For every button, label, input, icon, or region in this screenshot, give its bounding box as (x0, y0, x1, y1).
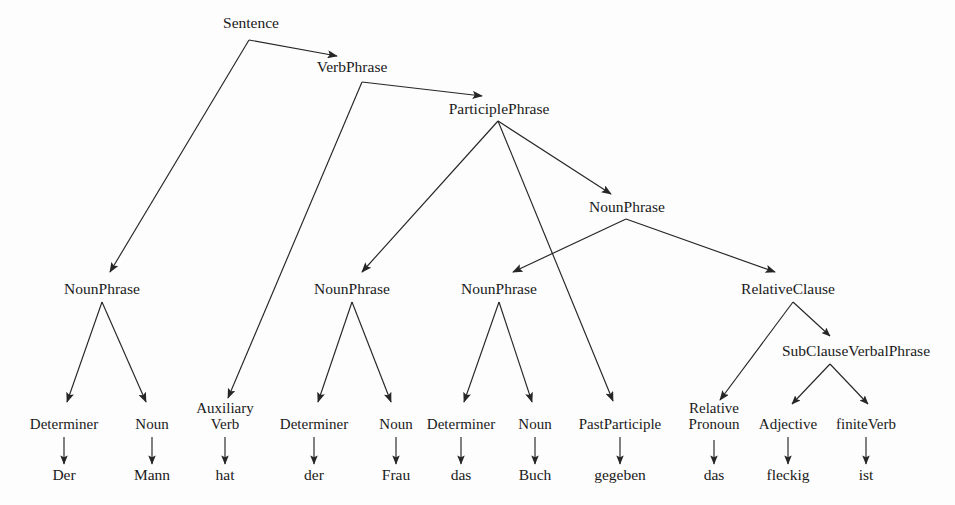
terminal-word-gegeben[interactable]: gegeben (594, 466, 646, 483)
edge-participlephrase-pastparticiple (498, 121, 613, 401)
node-relativeclause[interactable]: RelativeClause (741, 280, 835, 297)
terminal-word-das-1[interactable]: das (451, 466, 472, 483)
node-nounphrase_1[interactable]: NounPhrase (64, 280, 140, 297)
node-verbphrase[interactable]: VerbPhrase (317, 58, 388, 75)
terminal-word-der-1[interactable]: Der (52, 466, 76, 483)
edge-verbphrase-auxiliaryverb (228, 82, 362, 398)
edge-relativeclause-subclauseverbalphrase (793, 302, 830, 336)
pos-determiner-2[interactable]: Determiner (280, 416, 348, 432)
pos-noun-3[interactable]: Noun (518, 416, 552, 432)
syntax-tree-diagram: SentenceVerbPhraseParticiplePhraseNounPh… (0, 0, 955, 505)
pos-noun-1[interactable]: Noun (135, 416, 169, 432)
edge-sentence-verbphrase (249, 40, 337, 56)
edge-nounphraseobj-nounphrase3 (513, 219, 626, 272)
pos-noun-2[interactable]: Noun (379, 416, 413, 432)
edge-subclause-adjective (792, 364, 830, 404)
edge-nounphrase3-determiner3 (464, 302, 499, 402)
edge-nounphrase2-noun2 (352, 302, 391, 402)
nodes-layer: SentenceVerbPhraseParticiplePhraseNounPh… (30, 14, 930, 483)
terminal-word-ist[interactable]: ist (859, 466, 874, 483)
pos-adjective[interactable]: Adjective (759, 416, 818, 432)
edge-nounphrase1-determiner1 (67, 302, 102, 402)
edge-nounphrase2-determiner2 (318, 302, 352, 402)
pos-pastparticiple[interactable]: PastParticiple (579, 416, 662, 432)
terminal-word-mann[interactable]: Mann (134, 466, 170, 483)
node-participlephrase[interactable]: ParticiplePhrase (449, 100, 550, 117)
edge-participlephrase-nounphraseobj (498, 121, 611, 194)
pos-determiner-3[interactable]: Determiner (427, 416, 495, 432)
node-subclauseverbalphrase[interactable]: SubClauseVerbalPhrase (782, 342, 930, 359)
terminal-word-buch[interactable]: Buch (519, 466, 552, 483)
terminal-word-frau[interactable]: Frau (382, 466, 411, 483)
node-nounphrase_2[interactable]: NounPhrase (314, 280, 390, 297)
pos-auxiliary-verb[interactable]: AuxiliaryVerb (196, 400, 254, 432)
pos-determiner-1[interactable]: Determiner (30, 416, 98, 432)
edge-nounphrase1-noun1 (102, 302, 146, 402)
node-nounphrase_3[interactable]: NounPhrase (461, 280, 537, 297)
terminal-word-hat[interactable]: hat (216, 466, 236, 483)
pos-relative-pronoun[interactable]: RelativePronoun (689, 400, 740, 432)
pos-finiteverb[interactable]: finiteVerb (836, 416, 896, 432)
edge-subclause-finiteverb (830, 364, 868, 404)
edge-verbphrase-participlephrase (362, 82, 482, 96)
edge-nounphrase3-noun3 (499, 302, 532, 402)
terminal-word-fleckig[interactable]: fleckig (766, 466, 809, 483)
node-sentence[interactable]: Sentence (223, 14, 279, 31)
edge-nounphraseobj-relativeclause (626, 219, 775, 272)
terminal-word-der-2[interactable]: der (304, 466, 325, 483)
tree-canvas: SentenceVerbPhraseParticiplePhraseNounPh… (0, 0, 955, 505)
edge-sentence-nounphrase1 (110, 40, 249, 272)
edge-participlephrase-nounphrase2 (362, 121, 498, 272)
node-nounphrase_obj[interactable]: NounPhrase (589, 198, 665, 215)
terminal-word-das-2[interactable]: das (704, 466, 725, 483)
